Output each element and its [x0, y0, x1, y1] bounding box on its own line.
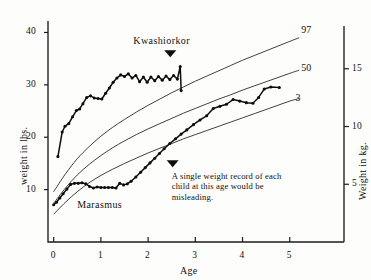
- record-point: [63, 125, 66, 128]
- ytick-label-left-40: 40: [26, 26, 36, 36]
- record-point: [245, 101, 248, 104]
- record-point: [78, 107, 81, 110]
- ytick-label-left-10: 10: [26, 184, 36, 194]
- record-point: [127, 72, 130, 75]
- record-point: [81, 102, 84, 105]
- ytick-label-right-10: 10: [352, 121, 362, 131]
- record-point: [149, 75, 152, 78]
- marasmus-label: Marasmus: [77, 199, 122, 210]
- record-point: [153, 157, 156, 160]
- record-point: [168, 142, 171, 145]
- record-point: [100, 97, 103, 100]
- xtick-label-2: 2: [145, 250, 150, 260]
- record-point: [139, 171, 142, 174]
- record-point: [174, 137, 177, 140]
- record-point: [168, 78, 171, 81]
- record-point: [75, 109, 78, 112]
- record-point: [192, 123, 195, 126]
- record-point: [88, 185, 91, 188]
- record-point: [61, 130, 64, 133]
- record-point: [163, 147, 166, 150]
- percentile-label-50: 50: [301, 62, 311, 73]
- record-point: [55, 201, 58, 204]
- record-point: [278, 86, 281, 89]
- xtick-label-3: 3: [192, 250, 197, 260]
- record-point: [123, 75, 126, 78]
- record-point: [93, 96, 96, 99]
- ytick-label-left-30: 30: [26, 79, 36, 89]
- record-point: [144, 166, 147, 169]
- record-point: [65, 188, 68, 191]
- misleading-note-line-3: misleading.: [172, 192, 282, 203]
- xtick-label-5: 5: [287, 250, 292, 260]
- misleading-note: A single weight record of eachchild at t…: [172, 171, 282, 203]
- misleading-note-line-1: A single weight record of each: [172, 171, 282, 182]
- record-point: [180, 89, 183, 92]
- record-point: [251, 102, 254, 105]
- annotation-arrows-layer: [164, 50, 178, 167]
- record-point: [198, 118, 201, 121]
- x-axis-title: Age: [180, 265, 198, 276]
- misleading-note-arrow-icon: [167, 160, 179, 167]
- record-point: [85, 96, 88, 99]
- record-point: [69, 183, 72, 186]
- growth-chart: 1020304051015012345weight in lbs.Weight …: [0, 0, 371, 280]
- record-point: [130, 180, 133, 183]
- record-point: [205, 114, 208, 117]
- record-point: [232, 98, 235, 101]
- record-point: [92, 187, 95, 190]
- y-axis-title-left: weight in lbs.: [18, 127, 29, 185]
- record-point: [225, 103, 228, 106]
- record-point: [80, 181, 83, 184]
- record-point: [71, 115, 74, 118]
- record-point: [134, 176, 137, 179]
- record-point: [56, 155, 59, 158]
- record-point: [164, 74, 167, 77]
- record-point: [138, 80, 141, 83]
- record-point: [89, 94, 92, 97]
- record-point: [161, 79, 164, 82]
- record-point: [118, 182, 121, 185]
- record-point: [212, 107, 215, 110]
- record-point: [99, 186, 102, 189]
- record-point: [134, 74, 137, 77]
- record-point: [73, 182, 76, 185]
- record-point: [148, 161, 151, 164]
- record-point: [111, 186, 114, 189]
- xtick-label-1: 1: [98, 250, 103, 260]
- record-point: [185, 128, 188, 131]
- record-point: [180, 133, 183, 136]
- record-point: [142, 75, 145, 78]
- record-point: [62, 192, 65, 195]
- record-point: [238, 100, 241, 103]
- record-point: [257, 96, 260, 99]
- record-point: [172, 74, 175, 77]
- record-point: [67, 122, 70, 125]
- record-point: [119, 73, 122, 76]
- kwashiorkor-arrow-icon: [164, 50, 176, 57]
- y-axis-title-right: Weight in kg.: [357, 142, 368, 200]
- record-point: [146, 81, 149, 84]
- record-point: [218, 105, 221, 108]
- record-point: [179, 65, 182, 68]
- record-point: [52, 203, 55, 206]
- misleading-note-line-2: child at this age would be: [172, 181, 282, 192]
- reference-curve-97: [54, 38, 300, 192]
- record-point: [126, 182, 129, 185]
- record-point: [84, 182, 87, 185]
- record-point: [103, 186, 106, 189]
- record-point: [97, 97, 100, 100]
- record-point: [122, 183, 125, 186]
- record-point: [269, 85, 272, 88]
- record-point: [104, 92, 107, 95]
- xtick-label-0: 0: [51, 250, 56, 260]
- record-point: [157, 75, 160, 78]
- record-point: [96, 185, 99, 188]
- record-point: [153, 79, 156, 82]
- record-point: [131, 77, 134, 80]
- xtick-label-4: 4: [240, 250, 245, 260]
- percentile-label-97: 97: [301, 24, 311, 35]
- record-point: [176, 78, 179, 81]
- record-point: [112, 81, 115, 84]
- record-point: [115, 77, 118, 80]
